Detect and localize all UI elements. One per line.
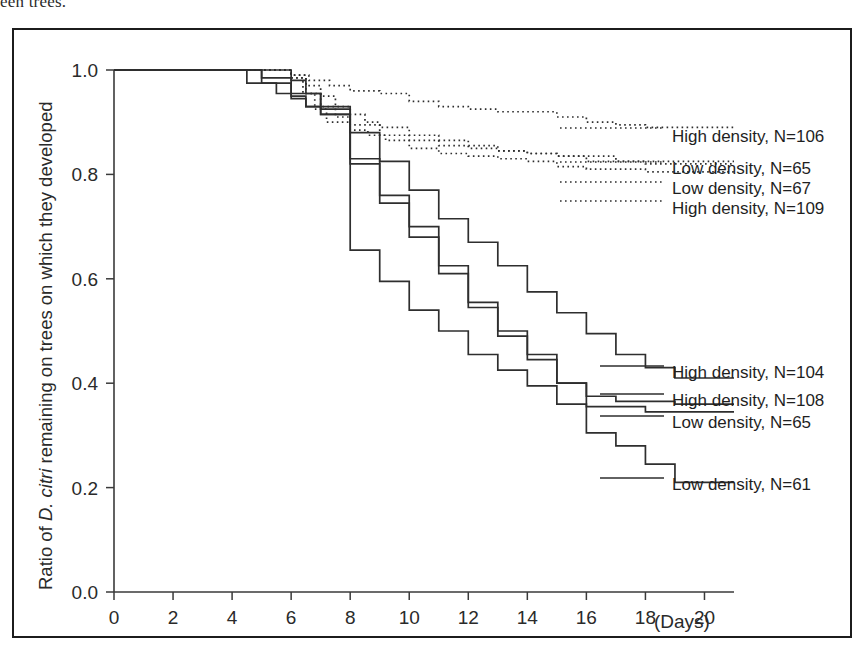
svg-text:Ratio of D. citri remaining on: Ratio of D. citri remaining on trees on …: [35, 102, 56, 590]
series-curve: [114, 70, 734, 161]
y-tick-label: 0.2: [72, 478, 98, 499]
survival-curve-chart: 0.00.20.40.60.81.0 02468101214161820 (Da…: [14, 30, 850, 636]
series-curve: [114, 70, 734, 164]
y-tick-labels: 0.00.20.40.60.81.0: [72, 60, 99, 603]
axes: [106, 70, 734, 600]
series-leader-lines: [560, 128, 664, 478]
figure-frame: 0.00.20.40.60.81.0 02468101214161820 (Da…: [12, 28, 852, 638]
series-curves: [114, 70, 734, 482]
series-label: High density, N=106: [672, 127, 824, 146]
x-tick-label: 14: [517, 607, 539, 628]
y-axis-title-prefix: Ratio of: [35, 521, 56, 590]
series-curve: [114, 70, 734, 127]
y-axis-title-italic: D. citri: [35, 468, 56, 521]
cut-off-caption-text: een trees.: [0, 0, 66, 12]
x-tick-marks: [114, 592, 704, 600]
y-tick-marks: [106, 70, 114, 592]
series-label: Low density, N=65: [672, 413, 811, 432]
x-tick-labels: 02468101214161820: [109, 607, 715, 628]
x-tick-label: 4: [227, 607, 238, 628]
x-tick-label: 8: [345, 607, 356, 628]
y-axis-title-suffix: remaining on trees on which they develop…: [35, 102, 56, 469]
y-tick-label: 0.6: [72, 269, 98, 290]
x-tick-label: 10: [399, 607, 420, 628]
series-label: High density, N=108: [672, 391, 824, 410]
series-labels: High density, N=106Low density, N=65Low …: [672, 127, 824, 494]
x-tick-label: 6: [286, 607, 297, 628]
x-tick-label: 0: [109, 607, 120, 628]
y-tick-label: 1.0: [72, 60, 98, 81]
x-tick-label: 18: [635, 607, 656, 628]
series-label: Low density, N=65: [672, 159, 811, 178]
x-tick-label: 2: [168, 607, 179, 628]
y-axis-title: Ratio of D. citri remaining on trees on …: [35, 102, 56, 590]
series-label: High density, N=104: [672, 363, 824, 382]
series-label: Low density, N=61: [672, 475, 811, 494]
series-curve: [114, 70, 734, 378]
y-tick-label: 0.4: [72, 373, 99, 394]
series-curve: [114, 70, 734, 172]
series-curve: [114, 70, 734, 482]
series-curve: [114, 70, 734, 412]
x-axis-title: (Days): [654, 611, 710, 632]
series-label: High density, N=109: [672, 199, 824, 218]
y-tick-label: 0.8: [72, 164, 98, 185]
x-tick-label: 12: [458, 607, 479, 628]
y-tick-label: 0.0: [72, 582, 98, 603]
x-tick-label: 16: [576, 607, 597, 628]
series-label: Low density, N=67: [672, 179, 811, 198]
